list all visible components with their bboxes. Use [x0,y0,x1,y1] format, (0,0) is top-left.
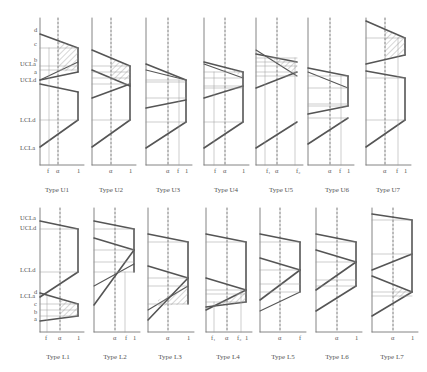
x-tick-L4-1: α [225,334,228,341]
x-tick-L2-0: α [113,334,116,341]
y-label-lower-4: LCLa [20,292,35,299]
x-tick-U6-1: f [339,167,341,174]
x-tick-U6-2: 1 [347,167,350,174]
caption-lower-2: Type L2 [103,353,126,361]
x-tick-L2-2: 1 [133,334,136,341]
x-tick-U3-1: f [177,167,179,174]
x-tick-L5-0: α [278,334,281,341]
x-tick-U4-2: 1 [242,167,245,174]
x-tick-L6-0: α [335,334,338,341]
x-tick-L1-0: f [45,334,47,341]
x-tick-L1-2: 1 [77,334,80,341]
x-tick-U4-1: α [223,167,226,174]
y-label-upper-3: b [34,56,37,63]
caption-upper-3: Type U3 [156,186,180,194]
x-tick-U1-0: f [47,167,49,174]
x-tick-L4-0: f₁ [211,334,215,341]
x-tick-L2-1: f [125,334,127,341]
x-tick-U4-0: f [214,167,216,174]
caption-upper-2: Type U2 [99,186,123,194]
y-label-lower-5: c [34,300,37,307]
x-tick-L4-3: 1 [245,334,248,341]
x-tick-U2-1: 1 [129,167,132,174]
caption-lower-5: Type L5 [271,353,294,361]
x-tick-U5-1: α [275,167,278,174]
x-tick-U5-2: f₂ [296,167,300,174]
y-label-lower-1: UCLd [20,224,36,231]
x-tick-L3-1: 1 [187,334,190,341]
caption-upper-5: Type U5 [269,186,293,194]
y-label-upper-1: c [34,40,37,47]
y-label-upper-5: UCLd [20,76,36,83]
y-label-lower-7: a [34,315,37,322]
caption-upper-7: Type U7 [376,186,400,194]
x-tick-U7-2: 1 [404,167,407,174]
caption-upper-1: Type U1 [45,186,69,194]
caption-upper-4: Type U4 [214,186,238,194]
caption-lower-3: Type L3 [158,353,181,361]
y-label-upper-4: a [34,68,37,75]
x-tick-U3-2: 1 [185,167,188,174]
y-label-lower-2: LCLd [20,266,36,273]
caption-lower-7: Type L7 [380,353,403,361]
x-tick-U2-0: α [109,167,112,174]
x-tick-U5-0: f₁ [266,167,270,174]
x-tick-L7-1: 1 [411,334,414,341]
caption-upper-6: Type U6 [325,186,349,194]
x-tick-U3-0: α [166,167,169,174]
x-tick-L7-0: α [391,334,394,341]
x-tick-L1-1: α [58,334,61,341]
x-tick-L5-1: f [299,334,301,341]
x-tick-U7-0: α [383,167,386,174]
x-tick-L4-2: f₂ [237,334,241,341]
y-label-upper-0: d [34,26,37,33]
caption-lower-1: Type L1 [46,353,69,361]
y-label-lower-0: UCLa [20,214,36,221]
x-tick-U1-1: α [56,167,59,174]
x-tick-L6-1: 1 [355,334,358,341]
x-tick-U7-1: f [396,167,398,174]
y-label-upper-7: LCLa [20,144,35,151]
x-tick-U1-2: 1 [77,167,80,174]
caption-lower-4: Type L4 [216,353,239,361]
y-label-lower-6: b [34,308,37,315]
y-label-upper-6: LCLd [20,116,36,123]
caption-lower-6: Type L6 [325,353,348,361]
x-tick-L3-0: α [166,334,169,341]
x-tick-U6-0: α [328,167,331,174]
